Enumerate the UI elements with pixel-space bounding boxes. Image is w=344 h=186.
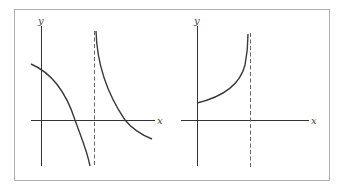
right-graph: y x bbox=[181, 15, 317, 167]
left-curve-branch-1 bbox=[31, 64, 90, 166]
right-curve bbox=[197, 34, 248, 103]
left-x-label: x bbox=[157, 115, 163, 126]
left-graph: y x bbox=[31, 15, 163, 167]
left-curve-branch-2 bbox=[96, 31, 152, 139]
figure-frame bbox=[15, 10, 330, 181]
right-x-label: x bbox=[311, 115, 317, 126]
right-y-label: y bbox=[193, 15, 200, 26]
graph-figure: y x y x bbox=[0, 0, 344, 186]
left-y-label: y bbox=[37, 15, 44, 26]
